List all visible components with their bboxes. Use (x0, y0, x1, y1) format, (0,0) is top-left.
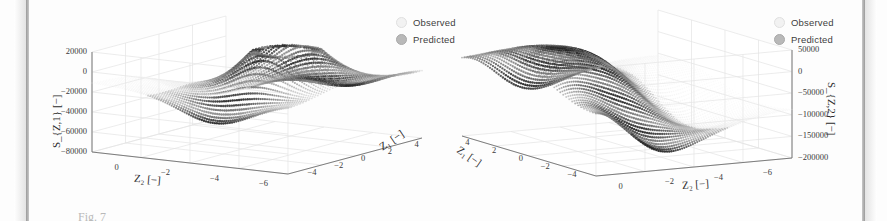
figure-caption: Fig. 7 (78, 210, 106, 221)
scatter-dot-icon (774, 34, 785, 45)
y-tick-left-1: −2 (334, 160, 343, 170)
z-tick-left-1: 0 (83, 66, 87, 76)
figure-page: S_{Z,1} [−] 20000 0 −20000 −40000 −60000… (0, 0, 887, 221)
legend-item-predicted-left: Predicted (396, 31, 456, 48)
x-tick-left-2: −4 (210, 173, 219, 183)
y-tick-right-2: 0 (519, 153, 523, 163)
z-tick-left-3: −40000 (61, 106, 87, 116)
legend-right: Observed Predicted (774, 14, 834, 48)
x-tick-left-3: −6 (259, 178, 268, 188)
y-tick-left-4: 4 (415, 139, 419, 149)
legend-item-observed-right: Observed (774, 14, 834, 31)
legend-item-observed-left: Observed (396, 14, 456, 31)
z-tick-right-4: −150000 (798, 130, 828, 140)
axis-label-x-right: Z₂ [−] (682, 177, 710, 191)
x-tick-left-1: −2 (161, 167, 170, 177)
legend-left: Observed Predicted (396, 14, 456, 48)
chart-panel-right: S_{Z,2} [−] 50000 0 −50000 −100000 −1500… (448, 0, 866, 221)
page-left-edge (26, 0, 29, 221)
x-tick-right-2: −2 (665, 176, 674, 186)
z-tick-left-0: 20000 (66, 46, 87, 56)
chart-panel-left: S_{Z,1} [−] 20000 0 −20000 −40000 −60000… (30, 0, 450, 221)
legend-label-predicted: Predicted (791, 34, 833, 45)
z-tick-left-4: −60000 (61, 126, 87, 136)
z-tick-right-3: −100000 (798, 109, 828, 119)
y-tick-right-1: −2 (541, 161, 550, 171)
z-tick-left-5: −80000 (61, 146, 87, 156)
x-tick-right-1: −4 (714, 172, 723, 182)
z-tick-right-5: −200000 (798, 152, 828, 162)
z-tick-left-2: −20000 (61, 86, 87, 96)
x-tick-right-3: 0 (618, 181, 622, 191)
scatter-dot-icon (396, 17, 407, 28)
page-right-shadow (865, 0, 877, 221)
axis-label-x-left: Z₂ [−] (134, 172, 162, 186)
axis-label-z-left: S_{Z,1} [−] (50, 95, 62, 148)
y-tick-left-0: −4 (307, 167, 316, 177)
z-tick-right-1: 0 (798, 66, 802, 76)
z-tick-right-2: −50000 (798, 87, 824, 97)
legend-label-observed: Observed (791, 17, 834, 28)
y-tick-right-3: 2 (492, 145, 496, 155)
plot-svg-left (30, 0, 450, 221)
page-left-shadow (14, 0, 26, 221)
x-tick-right-0: −6 (763, 167, 772, 177)
y-tick-left-2: 0 (361, 153, 365, 163)
plot-area-left (30, 0, 450, 221)
scatter-dot-icon (774, 17, 785, 28)
legend-item-predicted-right: Predicted (774, 31, 834, 48)
x-tick-left-0: 0 (114, 162, 118, 172)
y-tick-right-0: −4 (568, 169, 577, 179)
scatter-dot-icon (396, 34, 407, 45)
